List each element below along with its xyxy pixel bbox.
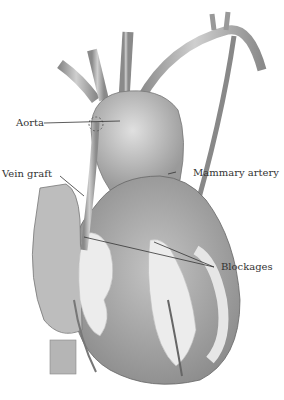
branch-center (124, 32, 128, 100)
aorta (91, 91, 183, 190)
label-aorta: Aorta (16, 117, 44, 129)
label-vein-graft: Vein graft (2, 168, 52, 180)
branch-left (60, 64, 96, 100)
right-atrium (32, 184, 82, 333)
label-blockages: Blockages (221, 261, 273, 273)
heart-illustration (0, 0, 284, 400)
mammary-artery-vessel (140, 30, 262, 100)
label-mammary-artery: Mammary artery (193, 167, 279, 179)
heart-bypass-diagram: Aorta Vein graft Mammary artery Blockage… (0, 0, 284, 400)
